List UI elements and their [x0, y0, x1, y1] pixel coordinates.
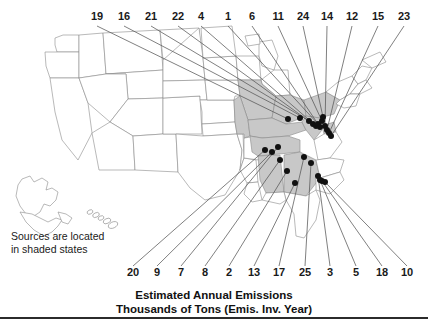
callout-label-8: 8 [202, 266, 208, 278]
source-marker-25 [308, 160, 314, 166]
callout-label-20: 20 [127, 266, 139, 278]
figure-bottom-rule [0, 317, 428, 319]
source-marker-8 [277, 157, 283, 163]
state-louisiana [240, 158, 258, 183]
leader-line-5 [320, 180, 356, 266]
state-florida [284, 190, 320, 238]
callout-label-11: 11 [272, 10, 283, 22]
callout-label-4: 4 [198, 10, 204, 22]
source-marker-24 [320, 114, 326, 120]
state-kentucky [248, 118, 306, 138]
state-texas [176, 134, 242, 200]
callout-label-19: 19 [91, 10, 103, 22]
callout-label-25: 25 [299, 266, 311, 278]
leader-line-18 [322, 181, 382, 266]
callout-label-22: 22 [172, 10, 184, 22]
callout-label-14: 14 [321, 10, 333, 22]
state-idaho [79, 33, 106, 78]
inset-alaska [16, 176, 58, 216]
source-marker-6 [317, 124, 323, 130]
source-marker-17 [301, 154, 307, 160]
callout-label-23: 23 [398, 10, 410, 22]
state-oklahoma-panhandle [202, 122, 237, 136]
source-marker-7 [275, 144, 281, 150]
state-tennessee [250, 136, 300, 156]
state-iowa [205, 80, 240, 100]
callout-label-7: 7 [178, 266, 184, 278]
figure-title-line2: Thousands of Tons (Emis. Inv. Year) [0, 302, 428, 316]
source-marker-16 [297, 115, 303, 121]
callout-label-3: 3 [327, 266, 333, 278]
callout-label-13: 13 [248, 266, 260, 278]
callout-label-1: 1 [225, 10, 231, 22]
state-montana [103, 30, 163, 74]
source-marker-13 [292, 180, 298, 186]
state-michigan-lower [259, 40, 278, 70]
callout-label-21: 21 [145, 10, 157, 22]
source-marker-9 [269, 149, 275, 155]
figure-title-line1: Estimated Annual Emissions [0, 288, 428, 302]
figure-title: Estimated Annual Emissions Thousands of … [0, 288, 428, 316]
leader-line-15 [329, 26, 378, 133]
inset-hawaii-island-1 [86, 209, 93, 215]
source-marker-10 [322, 179, 328, 185]
source-marker-19 [285, 116, 291, 122]
callout-label-5: 5 [353, 266, 359, 278]
source-marker-20 [262, 147, 268, 153]
leader-line-10 [325, 182, 407, 266]
callout-label-9: 9 [154, 266, 160, 278]
state-florida-panhandle-west [262, 192, 286, 204]
callout-label-24: 24 [297, 10, 309, 22]
callout-label-12: 12 [346, 10, 358, 22]
callout-label-10: 10 [401, 266, 413, 278]
state-oregon [45, 52, 79, 78]
source-marker-23 [328, 133, 334, 139]
callout-label-15: 15 [372, 10, 384, 22]
callout-label-17: 17 [273, 266, 285, 278]
source-marker-2 [284, 168, 290, 174]
callout-label-2: 2 [226, 266, 232, 278]
state-maine [362, 52, 386, 68]
state-nebraska [163, 80, 207, 100]
emissions-source-map-figure: 1916212241611241412152320978213172535181… [0, 0, 428, 321]
callout-label-18: 18 [376, 266, 388, 278]
state-kansas [200, 100, 235, 124]
state-washington [55, 35, 79, 52]
state-colorado [163, 96, 202, 134]
map-caption: Sources are located in shaded states [11, 230, 104, 256]
callout-label-6: 6 [249, 10, 255, 22]
callout-label-16: 16 [118, 10, 130, 22]
state-michigan-upper [245, 34, 260, 46]
state-virginia [314, 132, 342, 160]
state-newmexico [133, 134, 178, 172]
us-map [0, 0, 428, 321]
